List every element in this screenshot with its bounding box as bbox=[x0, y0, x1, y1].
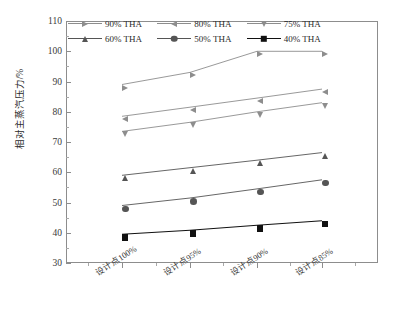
circle-icon bbox=[190, 198, 197, 205]
x-tick-minor bbox=[355, 263, 356, 266]
y-tick-mark bbox=[66, 172, 71, 173]
triangle-down-icon bbox=[257, 112, 263, 118]
triangle-up-icon bbox=[322, 153, 328, 159]
legend-item[interactable]: 50% THA bbox=[157, 34, 246, 44]
chart-legend[interactable]: 90% THA80% THA75% THA60% THA50% THA40% T… bbox=[68, 16, 336, 46]
y-tick-label: 50 bbox=[0, 198, 62, 207]
y-tick-mark bbox=[66, 203, 71, 204]
triangle-up-icon bbox=[257, 160, 263, 166]
y-tick-mark bbox=[66, 142, 71, 143]
circle-icon bbox=[257, 189, 264, 196]
y-tick-label: 60 bbox=[0, 168, 62, 177]
y-tick-minor bbox=[66, 218, 69, 219]
y-tick-minor bbox=[66, 157, 69, 158]
legend-line bbox=[68, 23, 102, 24]
square-icon bbox=[257, 225, 263, 231]
legend-item[interactable]: 80% THA bbox=[157, 19, 246, 29]
x-tick-mark bbox=[122, 263, 123, 268]
y-tick-mark bbox=[66, 112, 71, 113]
x-tick-minor bbox=[88, 263, 89, 266]
legend-line bbox=[157, 38, 191, 39]
y-tick-label: 80 bbox=[0, 107, 62, 116]
legend-item[interactable]: 90% THA bbox=[68, 19, 157, 29]
x-tick-mark bbox=[322, 263, 323, 268]
x-tick-mark bbox=[257, 263, 258, 268]
triangle-down-icon bbox=[261, 21, 267, 27]
legend-label: 60% THA bbox=[105, 34, 142, 44]
square-icon bbox=[322, 221, 328, 227]
triangle-left-icon bbox=[171, 21, 177, 27]
triangle-left-icon bbox=[257, 98, 263, 104]
triangle-right-icon bbox=[122, 85, 128, 91]
triangle-right-icon bbox=[190, 72, 196, 78]
triangle-up-icon bbox=[122, 175, 128, 181]
legend-line bbox=[247, 23, 281, 24]
legend-label: 90% THA bbox=[105, 19, 142, 29]
square-icon bbox=[122, 234, 128, 240]
triangle-up-icon bbox=[82, 36, 88, 42]
plot-area bbox=[66, 21, 378, 263]
legend-item[interactable]: 75% THA bbox=[247, 19, 336, 29]
y-tick-minor bbox=[66, 127, 69, 128]
y-tick-minor bbox=[66, 97, 69, 98]
circle-icon bbox=[171, 35, 178, 42]
triangle-up-icon bbox=[190, 168, 196, 174]
legend-line bbox=[157, 23, 191, 24]
triangle-left-icon bbox=[190, 107, 196, 113]
y-tick-mark bbox=[66, 263, 71, 264]
circle-icon bbox=[322, 180, 329, 187]
triangle-right-icon bbox=[322, 51, 328, 57]
x-tick-minor bbox=[223, 263, 224, 266]
y-tick-mark bbox=[66, 51, 71, 52]
legend-line bbox=[247, 38, 281, 39]
triangle-left-icon bbox=[322, 89, 328, 95]
y-tick-label: 70 bbox=[0, 138, 62, 147]
square-icon bbox=[190, 230, 196, 236]
y-tick-label: 110 bbox=[0, 17, 62, 26]
y-tick-label: 100 bbox=[0, 47, 62, 56]
square-icon bbox=[260, 35, 266, 41]
legend-label: 75% THA bbox=[284, 19, 321, 29]
triangle-left-icon bbox=[122, 116, 128, 122]
x-tick-minor bbox=[156, 263, 157, 266]
triangle-down-icon bbox=[122, 131, 128, 137]
legend-item[interactable]: 40% THA bbox=[247, 34, 336, 44]
legend-label: 80% THA bbox=[194, 19, 231, 29]
circle-icon bbox=[122, 206, 129, 213]
triangle-right-icon bbox=[82, 21, 88, 27]
y-tick-label: 90 bbox=[0, 77, 62, 86]
legend-line bbox=[68, 38, 102, 39]
y-tick-minor bbox=[66, 66, 69, 67]
legend-label: 50% THA bbox=[194, 34, 231, 44]
y-tick-label: 30 bbox=[0, 259, 62, 268]
triangle-down-icon bbox=[322, 103, 328, 109]
legend-label: 40% THA bbox=[284, 34, 321, 44]
triangle-down-icon bbox=[190, 122, 196, 128]
y-tick-label: 40 bbox=[0, 228, 62, 237]
y-tick-mark bbox=[66, 233, 71, 234]
y-tick-minor bbox=[66, 248, 69, 249]
y-tick-mark bbox=[66, 82, 71, 83]
x-tick-minor bbox=[290, 263, 291, 266]
y-tick-minor bbox=[66, 187, 69, 188]
x-tick-mark bbox=[190, 263, 191, 268]
figure-container: 相对主蒸汽压力/% 11010090807060504030 设计点100%设计… bbox=[0, 0, 400, 329]
legend-item[interactable]: 60% THA bbox=[68, 34, 157, 44]
triangle-right-icon bbox=[257, 51, 263, 57]
